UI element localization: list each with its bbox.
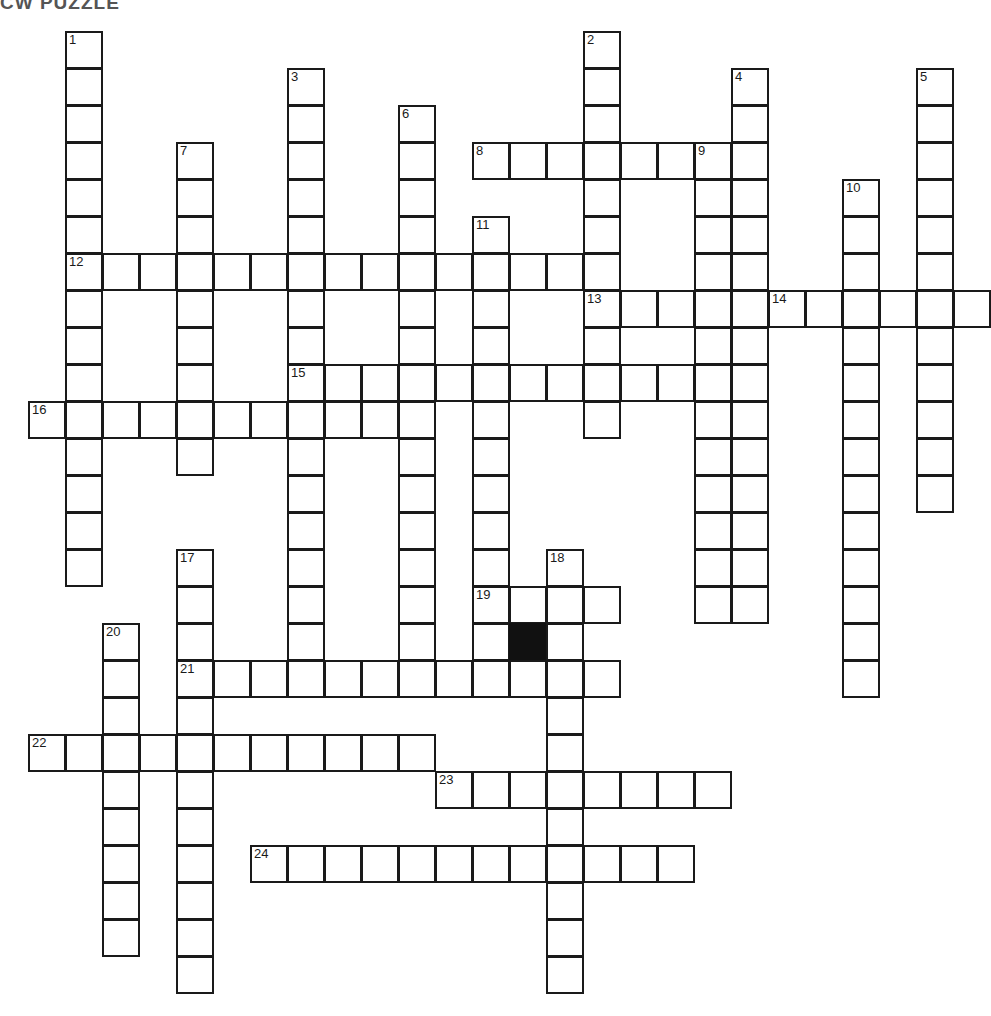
grid-cell[interactable] bbox=[916, 290, 954, 328]
grid-cell[interactable] bbox=[287, 660, 325, 698]
grid-cell[interactable] bbox=[546, 697, 584, 735]
grid-cell[interactable] bbox=[176, 179, 214, 217]
grid-cell[interactable]: 9 bbox=[694, 142, 732, 180]
grid-cell[interactable] bbox=[102, 734, 140, 772]
grid-cell[interactable] bbox=[546, 623, 584, 661]
grid-cell[interactable] bbox=[139, 401, 177, 439]
grid-cell[interactable] bbox=[509, 771, 547, 809]
grid-cell[interactable] bbox=[176, 216, 214, 254]
grid-cell[interactable]: 21 bbox=[176, 660, 214, 698]
grid-cell[interactable] bbox=[546, 734, 584, 772]
grid-cell[interactable] bbox=[176, 438, 214, 476]
grid-cell[interactable] bbox=[65, 105, 103, 143]
grid-cell[interactable] bbox=[250, 253, 288, 291]
grid-cell[interactable]: 1 bbox=[65, 31, 103, 69]
grid-cell[interactable]: 14 bbox=[768, 290, 806, 328]
grid-cell[interactable] bbox=[694, 401, 732, 439]
grid-cell[interactable] bbox=[65, 142, 103, 180]
grid-cell[interactable] bbox=[65, 179, 103, 217]
grid-cell[interactable] bbox=[842, 364, 880, 402]
grid-cell[interactable] bbox=[324, 401, 362, 439]
grid-cell[interactable] bbox=[657, 364, 695, 402]
grid-cell[interactable] bbox=[287, 142, 325, 180]
grid-cell[interactable] bbox=[583, 771, 621, 809]
grid-cell[interactable] bbox=[213, 253, 251, 291]
grid-cell[interactable]: 24 bbox=[250, 845, 288, 883]
grid-cell[interactable] bbox=[176, 401, 214, 439]
grid-cell[interactable] bbox=[731, 290, 769, 328]
grid-cell[interactable] bbox=[287, 253, 325, 291]
grid-cell[interactable] bbox=[731, 438, 769, 476]
grid-cell[interactable] bbox=[361, 253, 399, 291]
grid-cell[interactable] bbox=[435, 364, 473, 402]
grid-cell[interactable] bbox=[102, 660, 140, 698]
grid-cell[interactable] bbox=[398, 475, 436, 513]
grid-cell[interactable] bbox=[657, 845, 695, 883]
grid-cell[interactable] bbox=[916, 438, 954, 476]
grid-cell[interactable]: 16 bbox=[28, 401, 66, 439]
grid-cell[interactable] bbox=[287, 512, 325, 550]
grid-cell[interactable]: 3 bbox=[287, 68, 325, 106]
grid-cell[interactable] bbox=[398, 438, 436, 476]
grid-cell[interactable] bbox=[620, 290, 658, 328]
grid-cell[interactable] bbox=[398, 660, 436, 698]
grid-cell[interactable] bbox=[324, 364, 362, 402]
grid-cell[interactable] bbox=[65, 290, 103, 328]
grid-cell[interactable] bbox=[139, 253, 177, 291]
grid-cell[interactable] bbox=[472, 623, 510, 661]
grid-cell[interactable]: 22 bbox=[28, 734, 66, 772]
grid-cell[interactable] bbox=[731, 179, 769, 217]
grid-cell[interactable] bbox=[694, 586, 732, 624]
grid-cell[interactable] bbox=[620, 142, 658, 180]
grid-cell[interactable] bbox=[287, 216, 325, 254]
grid-cell[interactable] bbox=[102, 401, 140, 439]
grid-cell[interactable] bbox=[694, 549, 732, 587]
grid-cell[interactable] bbox=[176, 734, 214, 772]
grid-cell[interactable]: 6 bbox=[398, 105, 436, 143]
grid-cell[interactable] bbox=[694, 771, 732, 809]
grid-cell[interactable] bbox=[65, 216, 103, 254]
grid-cell[interactable] bbox=[250, 734, 288, 772]
grid-cell[interactable] bbox=[509, 586, 547, 624]
grid-cell[interactable] bbox=[546, 956, 584, 994]
grid-cell[interactable] bbox=[916, 401, 954, 439]
grid-cell[interactable] bbox=[102, 845, 140, 883]
grid-cell[interactable] bbox=[65, 512, 103, 550]
grid-cell[interactable] bbox=[805, 290, 843, 328]
grid-cell[interactable] bbox=[176, 845, 214, 883]
grid-cell[interactable] bbox=[398, 364, 436, 402]
grid-cell[interactable]: 10 bbox=[842, 179, 880, 217]
grid-cell[interactable] bbox=[657, 771, 695, 809]
grid-cell[interactable] bbox=[287, 401, 325, 439]
grid-cell[interactable] bbox=[398, 734, 436, 772]
grid-cell[interactable] bbox=[916, 253, 954, 291]
grid-cell[interactable] bbox=[731, 401, 769, 439]
grid-cell[interactable] bbox=[472, 845, 510, 883]
grid-cell[interactable] bbox=[65, 327, 103, 365]
grid-cell[interactable] bbox=[472, 364, 510, 402]
grid-cell[interactable] bbox=[472, 475, 510, 513]
grid-cell[interactable] bbox=[324, 734, 362, 772]
grid-cell[interactable] bbox=[731, 105, 769, 143]
grid-cell[interactable] bbox=[731, 216, 769, 254]
grid-cell[interactable] bbox=[731, 475, 769, 513]
grid-cell[interactable] bbox=[583, 586, 621, 624]
grid-cell[interactable] bbox=[694, 438, 732, 476]
grid-cell[interactable] bbox=[694, 290, 732, 328]
grid-cell[interactable] bbox=[879, 290, 917, 328]
grid-cell[interactable] bbox=[398, 253, 436, 291]
grid-cell[interactable] bbox=[324, 660, 362, 698]
grid-cell[interactable] bbox=[546, 845, 584, 883]
grid-cell[interactable] bbox=[842, 623, 880, 661]
grid-cell[interactable] bbox=[65, 364, 103, 402]
grid-cell[interactable] bbox=[176, 808, 214, 846]
grid-cell[interactable] bbox=[731, 549, 769, 587]
grid-cell[interactable] bbox=[694, 216, 732, 254]
grid-cell[interactable] bbox=[287, 623, 325, 661]
grid-cell[interactable] bbox=[731, 586, 769, 624]
grid-cell[interactable]: 13 bbox=[583, 290, 621, 328]
grid-cell[interactable] bbox=[324, 845, 362, 883]
grid-cell[interactable] bbox=[176, 623, 214, 661]
grid-cell[interactable] bbox=[398, 327, 436, 365]
grid-cell[interactable] bbox=[361, 660, 399, 698]
